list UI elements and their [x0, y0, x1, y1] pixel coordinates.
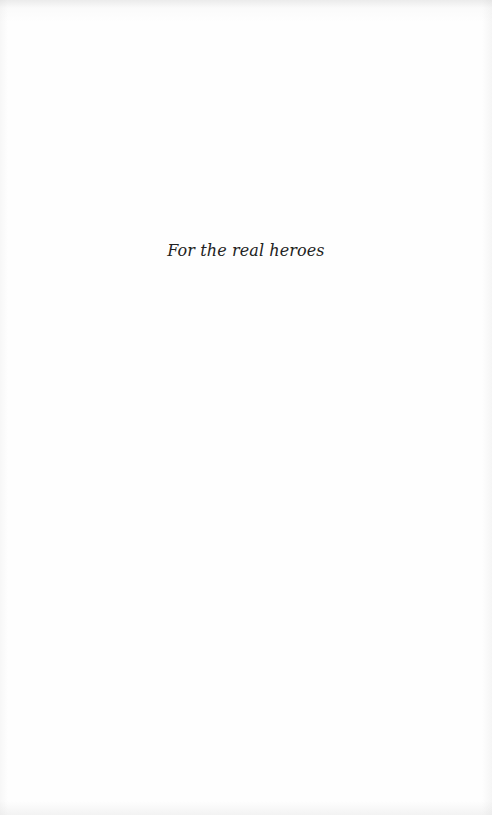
book-page: For the real heroes [0, 0, 492, 815]
dedication-text: For the real heroes [0, 240, 492, 262]
